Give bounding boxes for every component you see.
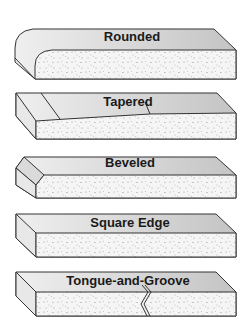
label-tongue-and-groove: Tongue-and-Groove: [66, 273, 189, 288]
label-beveled: Beveled: [105, 155, 155, 170]
profile-tapered: Tapered: [16, 93, 236, 139]
label-rounded: Rounded: [104, 29, 160, 44]
label-tapered: Tapered: [103, 94, 153, 109]
label-square-edge: Square Edge: [90, 215, 169, 230]
profile-beveled: Beveled: [16, 155, 236, 198]
profile-square-edge: Square Edge: [16, 214, 236, 257]
edge-profiles-diagram: Rounded Tapered Beveled Square Edge Tong…: [0, 0, 250, 330]
profile-tongue-and-groove: Tongue-and-Groove: [16, 272, 236, 316]
profile-rounded: Rounded: [15, 29, 236, 79]
